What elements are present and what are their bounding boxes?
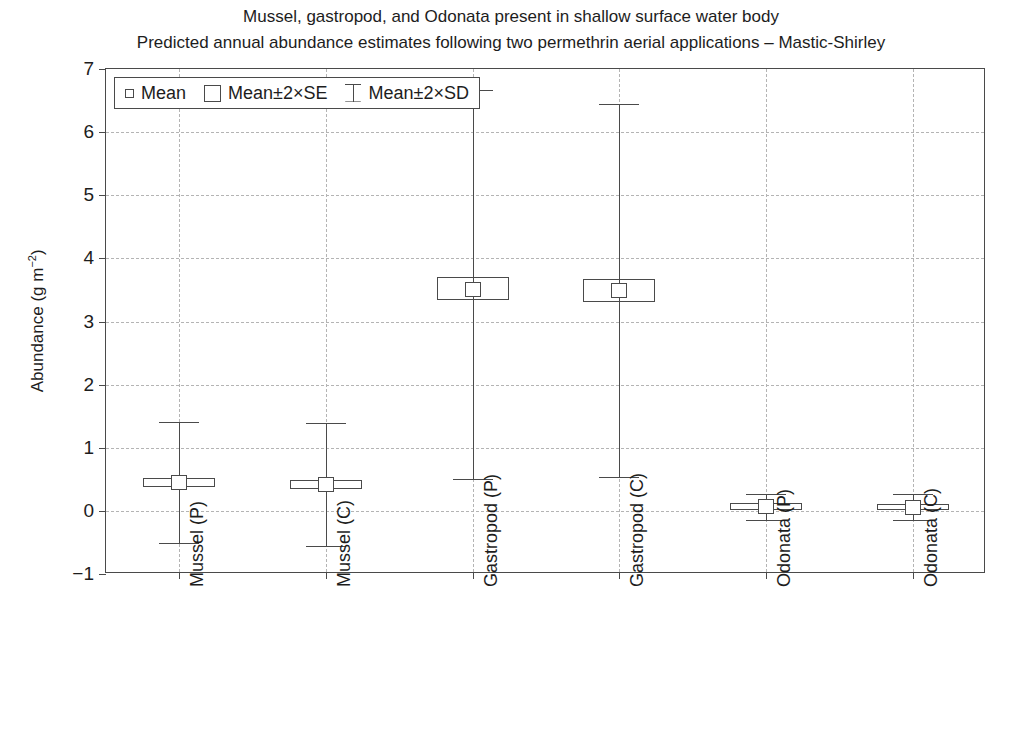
chart-title-block: Mussel, gastropod, and Odonata present i… <box>0 4 1022 56</box>
gridline-y-2 <box>106 385 984 386</box>
y-tick-mark <box>99 132 106 133</box>
chart-title: Mussel, gastropod, and Odonata present i… <box>0 4 1022 30</box>
y-tick-mark <box>99 511 106 512</box>
y-axis-label-exponent: −2 <box>26 255 38 268</box>
mean-marker <box>905 500 921 515</box>
gridline-y-1 <box>106 448 984 449</box>
mean-marker <box>318 477 334 492</box>
gridline-y-0 <box>106 511 984 512</box>
legend-entry-sd: Mean±2×SD <box>345 83 468 104</box>
chart-legend: Mean Mean±2×SE Mean±2×SD <box>114 77 480 109</box>
mean-marker <box>465 282 481 297</box>
gridline-y-4 <box>106 258 984 259</box>
y-axis-label-tail: ) <box>28 249 47 255</box>
gridline-y-3 <box>106 322 984 323</box>
y-tick-mark <box>99 258 106 259</box>
legend-sd-whisker-icon <box>345 84 361 102</box>
y-tick-label: 2 <box>54 374 94 396</box>
x-tick-mark <box>913 572 914 579</box>
y-tick-label: 1 <box>54 437 94 459</box>
y-tick-label: 5 <box>54 184 94 206</box>
x-axis-label-1: Mussel (C) <box>334 500 355 587</box>
y-tick-label: 7 <box>54 58 94 80</box>
y-tick-mark <box>99 574 106 575</box>
y-tick-label: 0 <box>54 500 94 522</box>
y-tick-mark <box>99 69 106 70</box>
gridline-y-5 <box>106 195 984 196</box>
sd-cap-upper <box>306 423 346 424</box>
y-tick-label: −1 <box>54 563 94 585</box>
y-tick-label: 6 <box>54 121 94 143</box>
legend-label-se: Mean±2×SE <box>228 83 327 104</box>
legend-entry-mean: Mean <box>125 83 186 104</box>
gridline-y-6 <box>106 132 984 133</box>
sd-cap-upper <box>159 422 199 423</box>
mean-marker <box>758 499 774 514</box>
x-tick-mark <box>766 572 767 579</box>
x-tick-mark <box>619 572 620 579</box>
x-axis-label-0: Mussel (P) <box>187 501 208 587</box>
x-axis-label-5: Odonata (C) <box>921 488 942 587</box>
x-axis-label-4: Odonata (P) <box>774 489 795 587</box>
legend-entry-se: Mean±2×SE <box>204 83 327 104</box>
x-tick-mark <box>473 572 474 579</box>
plot-area: 76543210−1 Mean Mean±2×SE Mean±2×SD <box>105 68 985 573</box>
x-tick-mark <box>179 572 180 579</box>
mean-marker <box>611 283 627 298</box>
x-axis-label-3: Gastropod (C) <box>627 473 648 587</box>
y-axis-label: Abundance (g m−2) <box>26 221 48 421</box>
chart-subtitle: Predicted annual abundance estimates fol… <box>0 30 1022 56</box>
x-axis-label-2: Gastropod (P) <box>481 474 502 587</box>
y-tick-mark <box>99 195 106 196</box>
y-tick-mark <box>99 448 106 449</box>
legend-label-sd: Mean±2×SD <box>368 83 468 104</box>
y-tick-mark <box>99 322 106 323</box>
sd-cap-upper <box>599 104 639 105</box>
mean-marker <box>171 475 187 490</box>
x-tick-mark <box>326 572 327 579</box>
legend-mean-square-icon <box>125 89 134 98</box>
y-axis-label-base: Abundance (g m <box>28 268 47 393</box>
chart-figure: Mussel, gastropod, and Odonata present i… <box>0 0 1022 737</box>
y-tick-mark <box>99 385 106 386</box>
legend-label-mean: Mean <box>141 83 186 104</box>
y-tick-label: 3 <box>54 311 94 333</box>
y-tick-label: 4 <box>54 247 94 269</box>
legend-se-box-icon <box>204 85 221 102</box>
